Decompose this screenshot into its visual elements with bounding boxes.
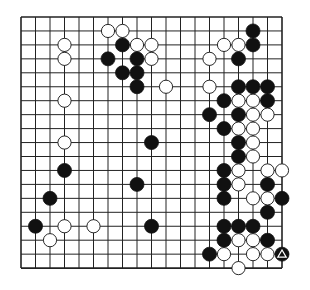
- white-stone[interactable]: [261, 192, 274, 205]
- white-stone[interactable]: [43, 234, 56, 247]
- black-stone[interactable]: [217, 233, 231, 247]
- black-stone[interactable]: [261, 205, 275, 219]
- white-stone[interactable]: [58, 52, 71, 65]
- black-stone[interactable]: [203, 108, 217, 122]
- white-stone[interactable]: [246, 192, 259, 205]
- white-stone[interactable]: [246, 122, 259, 135]
- white-stone[interactable]: [58, 94, 71, 107]
- black-stone[interactable]: [217, 122, 231, 136]
- white-stone[interactable]: [101, 24, 114, 37]
- black-stone[interactable]: [43, 191, 57, 205]
- black-stone[interactable]: [261, 233, 275, 247]
- black-stone[interactable]: [232, 80, 246, 94]
- white-stone[interactable]: [203, 80, 216, 93]
- white-stone[interactable]: [217, 38, 230, 51]
- black-stone[interactable]: [275, 191, 289, 205]
- black-stone[interactable]: [232, 136, 246, 150]
- white-stone[interactable]: [275, 164, 288, 177]
- black-stone[interactable]: [246, 80, 260, 94]
- white-stone[interactable]: [87, 220, 100, 233]
- black-stone[interactable]: [130, 52, 144, 66]
- black-stone[interactable]: [217, 94, 231, 108]
- black-stone[interactable]: [261, 177, 275, 191]
- white-stone[interactable]: [246, 108, 259, 121]
- black-stone[interactable]: [246, 38, 260, 52]
- black-stone[interactable]: [217, 191, 231, 205]
- white-stone[interactable]: [246, 234, 259, 247]
- black-stone[interactable]: [101, 52, 115, 66]
- white-stone[interactable]: [130, 38, 143, 51]
- black-stone[interactable]: [58, 163, 72, 177]
- black-stone[interactable]: [145, 136, 159, 150]
- white-stone[interactable]: [232, 122, 245, 135]
- go-board[interactable]: [0, 0, 310, 290]
- white-stone[interactable]: [58, 220, 71, 233]
- white-stone[interactable]: [145, 52, 158, 65]
- white-stone[interactable]: [246, 94, 259, 107]
- white-stone[interactable]: [232, 234, 245, 247]
- black-stone[interactable]: [130, 66, 144, 80]
- black-stone[interactable]: [116, 38, 130, 52]
- white-stone[interactable]: [116, 24, 129, 37]
- white-stone[interactable]: [232, 178, 245, 191]
- black-stone[interactable]: [130, 80, 144, 94]
- black-stone[interactable]: [29, 219, 43, 233]
- black-stone[interactable]: [246, 219, 260, 233]
- black-stone[interactable]: [130, 177, 144, 191]
- black-stone[interactable]: [217, 219, 231, 233]
- black-stone[interactable]: [246, 24, 260, 38]
- white-stone[interactable]: [246, 136, 259, 149]
- black-stone[interactable]: [232, 150, 246, 164]
- white-stone[interactable]: [203, 52, 216, 65]
- white-stone[interactable]: [159, 80, 172, 93]
- white-stone[interactable]: [232, 94, 245, 107]
- black-stone[interactable]: [232, 219, 246, 233]
- black-stone[interactable]: [116, 66, 130, 80]
- black-stone[interactable]: [232, 52, 246, 66]
- white-stone[interactable]: [246, 150, 259, 163]
- white-stone[interactable]: [58, 38, 71, 51]
- white-stone[interactable]: [217, 248, 230, 261]
- black-stone[interactable]: [261, 94, 275, 108]
- black-stone[interactable]: [203, 247, 217, 261]
- white-stone[interactable]: [261, 164, 274, 177]
- black-stone[interactable]: [145, 219, 159, 233]
- white-stone[interactable]: [232, 38, 245, 51]
- black-stone[interactable]: [232, 108, 246, 122]
- white-stone[interactable]: [261, 248, 274, 261]
- white-stone[interactable]: [232, 164, 245, 177]
- white-stone[interactable]: [58, 136, 71, 149]
- white-stone[interactable]: [232, 262, 245, 275]
- white-stone[interactable]: [145, 38, 158, 51]
- white-stone[interactable]: [246, 248, 259, 261]
- black-stone[interactable]: [261, 80, 275, 94]
- black-stone[interactable]: [217, 177, 231, 191]
- black-stone[interactable]: [217, 163, 231, 177]
- white-stone[interactable]: [261, 108, 274, 121]
